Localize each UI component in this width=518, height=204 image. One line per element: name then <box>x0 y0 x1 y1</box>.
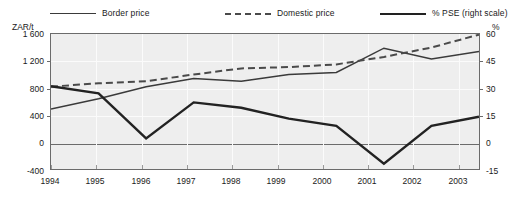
right-tick-30: 30 <box>486 84 516 94</box>
series-line-border-price <box>51 48 479 109</box>
legend-item-pse: % PSE (right scale) <box>380 4 508 21</box>
xtick-label-1995: 1995 <box>72 176 118 186</box>
left-tick-neg400: -400 <box>4 166 44 176</box>
left-tick-400: 400 <box>4 111 44 121</box>
xtick-label-1996: 1996 <box>118 176 164 186</box>
xtick-label-2003: 2003 <box>435 176 481 186</box>
tick-right-45 <box>479 61 483 62</box>
right-tick-60: 60 <box>486 29 516 39</box>
chart-legend: Border price Domestic price % PSE (right… <box>50 4 480 21</box>
legend-item-domestic-price: Domestic price <box>225 4 335 21</box>
data-series-layer <box>51 34 479 169</box>
xtick-label-1998: 1998 <box>208 176 254 186</box>
xtick-label-2001: 2001 <box>344 176 390 186</box>
left-tick-1600: 1 600 <box>4 29 44 39</box>
left-tick-1200: 1 200 <box>4 56 44 66</box>
tick-right-30 <box>479 89 483 90</box>
chart-container: Border price Domestic price % PSE (right… <box>0 0 518 204</box>
legend-label-pse: % PSE (right scale) <box>432 8 508 18</box>
xtick-label-1999: 1999 <box>253 176 299 186</box>
plot-area <box>50 33 480 170</box>
xtick-label-2000: 2000 <box>299 176 345 186</box>
right-tick-15: 15 <box>486 111 516 121</box>
legend-swatch-dashed-icon <box>225 8 271 18</box>
right-tick-0: 0 <box>486 138 516 148</box>
left-tick-800: 800 <box>4 84 44 94</box>
series-line-pse <box>51 86 479 163</box>
right-tick-neg15: -15 <box>486 166 516 176</box>
legend-swatch-solid-thin-icon <box>50 8 96 18</box>
xtick-label-1997: 1997 <box>163 176 209 186</box>
legend-label-border-price: Border price <box>102 8 150 18</box>
series-line-domestic-price <box>51 35 479 87</box>
right-tick-45: 45 <box>486 56 516 66</box>
legend-label-domestic-price: Domestic price <box>277 8 335 18</box>
legend-swatch-solid-thick-icon <box>380 8 426 18</box>
xtick-label-1994: 1994 <box>27 176 73 186</box>
left-tick-0: 0 <box>4 138 44 148</box>
legend-item-border-price: Border price <box>50 4 150 21</box>
xtick-label-2002: 2002 <box>389 176 435 186</box>
tick-right-15 <box>479 116 483 117</box>
